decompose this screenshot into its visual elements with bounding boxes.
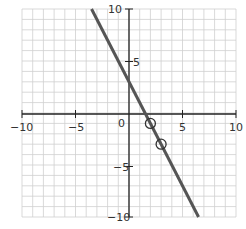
y-tick-label-neg10: −10 [107, 211, 130, 224]
x-tick-label-neg10: −10 [10, 121, 33, 134]
y-tick-label-10: 10 [108, 3, 122, 16]
y-tick-label-5: 5 [133, 56, 140, 69]
x-tick-label-10: 10 [229, 121, 243, 134]
origin-label: 0 [118, 117, 125, 130]
y-tick-label-neg5: −5 [113, 161, 129, 174]
x-tick-label-neg5: −5 [68, 121, 84, 134]
x-tick-label-5: 5 [179, 121, 186, 134]
coordinate-plane: −10 −5 0 5 10 10 5 −5 −10 [0, 0, 246, 229]
